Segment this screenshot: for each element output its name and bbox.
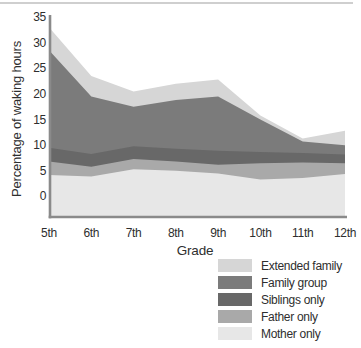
legend-swatch <box>218 310 252 323</box>
legend-label: Extended family <box>261 259 342 273</box>
x-tick-label-5th: 5th <box>27 226 71 240</box>
legend-row-siblings-only: Siblings only <box>218 293 342 306</box>
legend-label: Family group <box>261 276 327 290</box>
legend-row-mother-only: Mother only <box>218 327 342 340</box>
x-axis-title: Grade <box>130 243 260 258</box>
legend-label: Mother only <box>261 327 320 341</box>
x-tick-label-12th: 12th <box>323 226 361 240</box>
legend-swatch <box>218 327 252 340</box>
plot-area <box>0 0 353 260</box>
legend-swatch <box>218 276 252 289</box>
y-tick-label-35: 35 <box>14 10 46 24</box>
x-tick-label-9th: 9th <box>196 226 240 240</box>
y-tick-label-30: 30 <box>14 36 46 50</box>
x-tick-label-11th: 11th <box>281 226 325 240</box>
x-tick-label-8th: 8th <box>154 226 198 240</box>
legend-label: Father only <box>261 310 318 324</box>
x-tick-label-6th: 6th <box>69 226 113 240</box>
legend-row-extended-family: Extended family <box>218 259 342 272</box>
legend-row-family-group: Family group <box>218 276 342 289</box>
y-tick-label-15: 15 <box>14 113 46 127</box>
y-tick-label-20: 20 <box>14 87 46 101</box>
y-tick-label-10: 10 <box>14 138 46 152</box>
legend-swatch <box>218 259 252 272</box>
legend: Extended familyFamily groupSiblings only… <box>218 259 342 340</box>
legend-row-father-only: Father only <box>218 310 342 323</box>
x-tick-label-10th: 10th <box>238 226 282 240</box>
y-tick-label-25: 25 <box>14 61 46 75</box>
legend-swatch <box>218 293 252 306</box>
legend-label: Siblings only <box>261 293 324 307</box>
y-tick-label-5: 5 <box>14 164 46 178</box>
x-tick-label-7th: 7th <box>112 226 156 240</box>
y-tick-label-0: 0 <box>14 189 46 203</box>
